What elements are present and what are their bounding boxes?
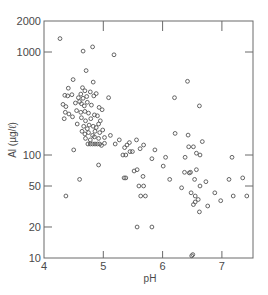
data-point-marker [87, 131, 91, 135]
data-point-marker [135, 225, 139, 229]
data-point-marker [135, 138, 139, 142]
data-point-marker [139, 194, 143, 198]
data-point-marker [107, 96, 111, 100]
data-point-marker [198, 210, 202, 214]
data-point-marker [84, 137, 88, 141]
scatter-chart: 4567 10205010010002000 pH Al (µg/ℓ) [0, 0, 268, 295]
data-point-marker [64, 105, 68, 109]
data-point-marker [81, 49, 85, 53]
data-point-marker [183, 155, 187, 159]
data-point-marker [87, 111, 91, 115]
y-tick-label: 100 [23, 149, 41, 161]
data-point-marker [198, 104, 202, 108]
data-point-marker [241, 176, 245, 180]
data-point-marker [113, 142, 117, 146]
data-point-marker [112, 53, 116, 57]
data-point-marker [200, 140, 204, 144]
data-point-marker [150, 157, 154, 161]
data-point-marker [62, 117, 66, 121]
data-point-marker [186, 79, 190, 83]
data-point-marker [97, 137, 101, 141]
data-point-marker [88, 138, 92, 142]
data-point-marker [71, 78, 75, 82]
data-point-marker [164, 155, 168, 159]
data-point-marker [75, 109, 79, 113]
data-point-marker [189, 191, 193, 195]
data-point-marker [131, 150, 135, 154]
data-point-marker [101, 128, 105, 132]
x-tick-label: 7 [219, 260, 225, 272]
data-point-marker [180, 186, 184, 190]
data-point-marker [198, 153, 202, 157]
data-point-marker [72, 148, 76, 152]
x-axis-label: pH [144, 273, 157, 284]
data-point-marker [193, 178, 197, 182]
data-point-marker [142, 184, 146, 188]
x-tick-label: 4 [41, 260, 47, 272]
data-point-marker [153, 148, 157, 152]
data-point-marker [117, 138, 121, 142]
data-point-marker [100, 108, 104, 112]
y-tick-label: 2000 [17, 15, 41, 27]
data-point-marker [82, 124, 86, 128]
data-point-marker [88, 90, 92, 94]
data-point-marker [78, 178, 82, 182]
data-point-marker [183, 170, 187, 174]
data-point-marker [75, 122, 79, 126]
data-point-marker [168, 178, 172, 182]
data-point-marker [85, 100, 89, 104]
y-tick-label: 1000 [17, 46, 41, 58]
data-point-marker [67, 112, 71, 116]
data-point-marker [192, 145, 196, 149]
data-point-marker [94, 92, 98, 96]
data-point-marker [206, 204, 210, 208]
data-point-marker [213, 191, 217, 195]
data-point-marker [83, 89, 87, 93]
data-point-marker [245, 194, 249, 198]
data-point-marker [186, 133, 190, 137]
data-point-marker [230, 155, 234, 159]
data-point-marker [173, 132, 177, 136]
data-point-marker [90, 103, 94, 107]
data-point-marker [161, 164, 165, 168]
x-tick-label: 5 [100, 260, 106, 272]
data-point-marker [227, 178, 231, 182]
data-point-marker [85, 95, 89, 99]
data-point-marker [138, 147, 142, 151]
data-point-marker [137, 184, 141, 188]
data-point-marker [80, 116, 84, 120]
data-point-marker [144, 194, 148, 198]
data-point-marker [141, 175, 145, 179]
y-tick-label: 20 [29, 221, 41, 233]
data-point-marker [87, 123, 91, 127]
y-axis-label: Al (µg/ℓ) [7, 122, 18, 158]
data-point-marker [173, 96, 177, 100]
data-point-marker [198, 184, 202, 188]
data-point-marker [103, 136, 107, 140]
data-point-marker [193, 194, 197, 198]
data-point-marker [92, 94, 96, 98]
data-point-marker [204, 180, 208, 184]
data-point-marker [103, 141, 107, 145]
data-point-marker [77, 96, 81, 100]
data-point-marker [84, 69, 88, 73]
x-tick-label: 6 [160, 260, 166, 272]
data-point-marker [187, 145, 191, 149]
data-point-marker [66, 86, 70, 90]
data-point-marker [84, 119, 88, 123]
data-point-marker [97, 122, 101, 126]
y-tick-label: 50 [29, 180, 41, 192]
data-point-marker [71, 115, 75, 119]
data-point-marker [195, 168, 199, 172]
data-point-marker [97, 163, 101, 167]
data-points [58, 37, 249, 258]
x-axis-ticks: 4567 [41, 21, 225, 272]
data-point-marker [219, 199, 223, 203]
data-point-marker [91, 80, 95, 84]
data-point-marker [93, 129, 97, 133]
data-point-marker [150, 225, 154, 229]
y-tick-label: 10 [29, 252, 41, 264]
data-point-marker [127, 141, 131, 145]
data-point-marker [70, 93, 74, 97]
data-point-marker [79, 110, 83, 114]
